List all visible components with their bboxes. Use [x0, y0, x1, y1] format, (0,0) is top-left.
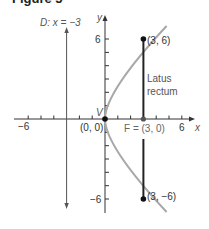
- parabola-diagram: D: x = −3 y x 6 −6 −6 6 V (0, 0) F = (3,…: [0, 0, 209, 229]
- tick-label-y-6: 6: [95, 34, 101, 45]
- point-3-6: [141, 36, 147, 42]
- point-bottom-label: (3, −6): [147, 191, 176, 202]
- tick-label-x-6: 6: [179, 122, 185, 133]
- x-axis-label: x: [194, 122, 201, 133]
- point-top-label: (3, 6): [147, 35, 170, 46]
- directrix-label: D: x = −3: [40, 17, 81, 28]
- vertex-label: (0, 0): [80, 122, 103, 133]
- tick-label-y-neg6: −6: [90, 194, 102, 205]
- tick-label-x-neg6: −6: [18, 121, 30, 132]
- vertex-point: [102, 116, 108, 122]
- vertex-letter: V: [96, 107, 104, 118]
- latus-label-line2: rectum: [147, 86, 178, 97]
- y-axis-label: y: [96, 12, 103, 23]
- latus-label-line1: Latus: [147, 73, 171, 84]
- point-3-neg6: [141, 196, 147, 202]
- focus-label: F = (3, 0): [124, 123, 165, 134]
- directrix-line: [64, 27, 68, 209]
- focus-point: [141, 116, 146, 121]
